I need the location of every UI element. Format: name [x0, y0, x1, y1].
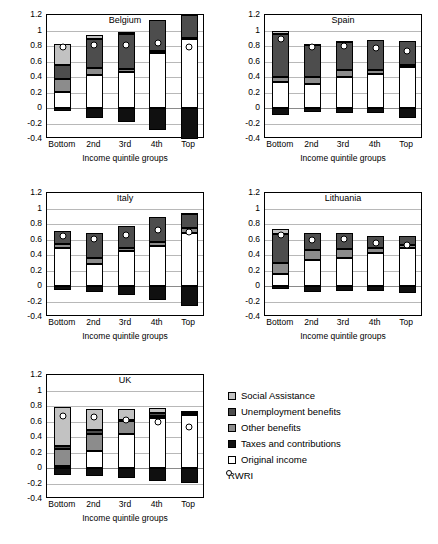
plot-area [46, 374, 204, 498]
stacked-bar [118, 193, 135, 317]
y-tick-label: 1 [2, 203, 42, 212]
x-axis: Bottom2nd3rd4thTop [264, 139, 422, 153]
stacked-bar [54, 15, 71, 139]
bar-segment-other [304, 77, 321, 84]
bar-segment-taxes [54, 286, 71, 290]
stacked-bar [86, 375, 103, 499]
stacked-bar [149, 15, 166, 139]
x-tick-label: 4th [151, 140, 163, 149]
bar-segment-orig [367, 74, 384, 108]
bar-segment-taxes [272, 286, 289, 289]
rwri-marker [277, 232, 284, 239]
rwri-marker [91, 414, 98, 421]
plot-area [264, 14, 422, 138]
x-tick-label: Bottom [48, 500, 75, 509]
legend-label: Unemployment benefits [241, 407, 341, 417]
legend-swatch-social-icon [228, 392, 236, 400]
legend-label: Other benefits [241, 423, 301, 433]
rwri-marker [154, 418, 161, 425]
x-tick-label: 4th [369, 140, 381, 149]
rwri-marker [341, 43, 348, 50]
x-axis-title: Income quintile groups [264, 154, 422, 163]
bar-segment-orig [118, 72, 135, 108]
y-axis: 1.210.80.60.40.20-0.2-0.4 [218, 14, 262, 138]
bar-segment-taxes [149, 468, 166, 481]
rwri-marker [123, 42, 130, 49]
legend-item-other: Other benefits [228, 420, 433, 436]
bar-segment-other [336, 249, 353, 258]
bar-segment-taxes [86, 108, 103, 118]
rwri-marker [91, 235, 98, 242]
stacked-bar [336, 193, 353, 317]
y-tick-label: 1.2 [2, 188, 42, 197]
legend-item-taxes: Taxes and contributions [228, 436, 433, 452]
stacked-bar [272, 15, 289, 139]
y-tick-label: 0.2 [2, 87, 42, 96]
y-tick-label: -0.4 [220, 134, 260, 143]
rwri-marker [154, 227, 161, 234]
legend-swatch-orig-icon [228, 456, 236, 464]
x-tick-label: Top [399, 318, 413, 327]
y-tick-label: 0.4 [2, 72, 42, 81]
x-axis-title: Income quintile groups [46, 154, 204, 163]
bar-segment-other [336, 70, 353, 77]
x-tick-label: 3rd [337, 140, 349, 149]
bar-segment-orig [149, 53, 166, 108]
bar-segment-taxes [149, 108, 166, 130]
y-tick-label: 0.8 [2, 401, 42, 410]
bar-segment-social [86, 35, 103, 39]
y-tick-label: 0.2 [220, 87, 260, 96]
plot-area [46, 14, 204, 138]
plot-area [46, 192, 204, 316]
x-tick-label: Bottom [266, 140, 293, 149]
x-axis: Bottom2nd3rd4thTop [46, 499, 204, 513]
bar-segment-other [86, 434, 103, 451]
chart-panel-uk: 1.210.80.60.40.20-0.2-0.4UKBottom2nd3rd4… [0, 360, 218, 538]
rwri-marker [277, 35, 284, 42]
x-axis: Bottom2nd3rd4thTop [46, 317, 204, 331]
x-tick-label: Top [181, 500, 195, 509]
y-tick-label: 0.2 [220, 265, 260, 274]
x-tick-label: 3rd [119, 318, 131, 327]
y-tick-label: 0 [2, 103, 42, 112]
legend-label: Social Assistance [241, 391, 315, 401]
chart-panel-italy: 1.210.80.60.40.20-0.2-0.4ItalyBottom2nd3… [0, 178, 218, 356]
bar-segment-taxes [181, 468, 198, 483]
panel-title: Spain [264, 16, 422, 25]
y-tick-label: -0.2 [2, 118, 42, 127]
x-tick-label: 3rd [337, 318, 349, 327]
x-tick-label: 2nd [304, 140, 318, 149]
bar-segment-taxes [181, 286, 198, 306]
bar-segment-other [272, 77, 289, 82]
bar-segment-taxes [367, 108, 384, 113]
bar-segment-taxes [54, 108, 71, 111]
y-tick-label: 1.2 [2, 370, 42, 379]
y-tick-label: 0 [2, 281, 42, 290]
rwri-marker [123, 416, 130, 423]
y-axis: 1.210.80.60.40.20-0.2-0.4 [218, 192, 262, 316]
bar-segment-other [118, 248, 135, 251]
bar-segment-other [367, 70, 384, 73]
bar-segment-orig [149, 246, 166, 286]
bar-segment-unemp [118, 34, 135, 70]
bar-segment-orig [149, 418, 166, 468]
bar-segment-taxes [118, 286, 135, 295]
bar-segment-unemp [54, 65, 71, 80]
stacked-bar [181, 375, 198, 499]
bar-segment-other [399, 65, 416, 67]
x-tick-label: Bottom [48, 140, 75, 149]
rwri-marker [186, 228, 193, 235]
bar-segment-taxes [118, 108, 135, 122]
bar-segment-social [149, 408, 166, 413]
stacked-bar [181, 193, 198, 317]
rwri-marker [309, 236, 316, 243]
bar-segment-other [54, 244, 71, 247]
bar-segment-orig [399, 67, 416, 108]
legend-swatch-taxes-icon [228, 440, 236, 448]
bar-segment-taxes [336, 108, 353, 113]
bar-segment-other [181, 414, 198, 416]
panel-title: Italy [46, 194, 204, 203]
y-tick-label: 1 [220, 25, 260, 34]
x-tick-label: 2nd [86, 318, 100, 327]
x-axis-title: Income quintile groups [264, 332, 422, 341]
